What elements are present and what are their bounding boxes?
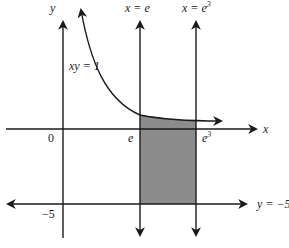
curve-xy-1 — [81, 10, 221, 121]
y-axis-label: y — [49, 1, 56, 15]
origin-label: 0 — [48, 131, 54, 145]
curve-label: xy = 1 — [68, 59, 100, 73]
diagram-canvas: y x 0 xy = 1 x = e x = e3 e e3 −5 y = −5 — [0, 0, 289, 248]
line-x-e-label: x = e — [124, 1, 150, 15]
tick-neg5-label: −5 — [42, 207, 55, 221]
line-y-neg5-label: y = −5 — [256, 197, 289, 211]
x-axis-label: x — [262, 122, 269, 136]
tick-e3-label: e3 — [202, 130, 211, 145]
tick-e-label: e — [128, 131, 134, 145]
line-x-e3-label: x = e3 — [181, 0, 211, 15]
